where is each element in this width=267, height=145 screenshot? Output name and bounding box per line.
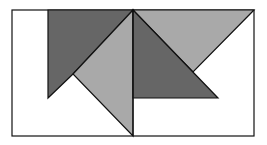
tangram-diagram (0, 0, 267, 145)
